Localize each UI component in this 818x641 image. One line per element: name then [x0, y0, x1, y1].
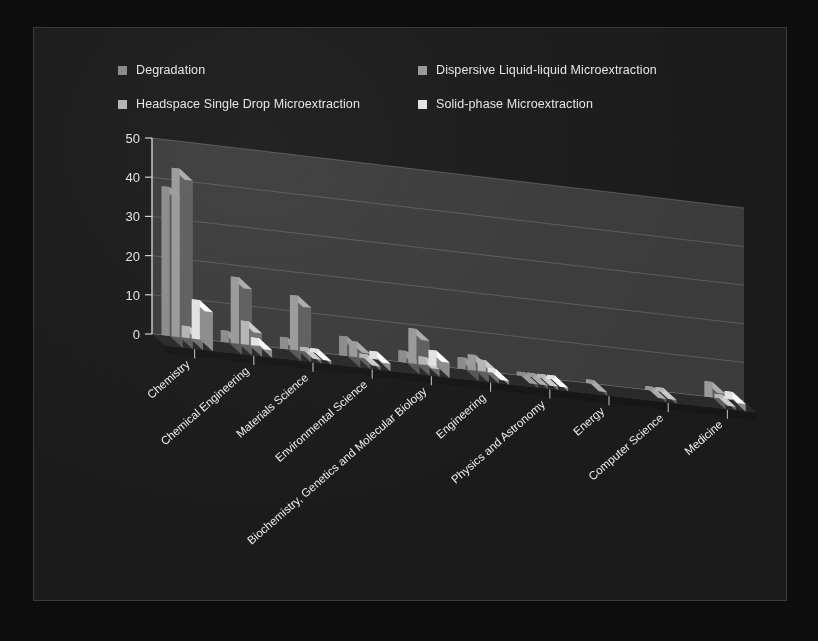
bar: [172, 168, 193, 349]
y-tick-label-20: 20: [126, 249, 140, 264]
bar-front-face[interactable]: [478, 359, 486, 372]
bar-front-face[interactable]: [408, 328, 416, 364]
legend-item-solid-phase-microextraction[interactable]: Solid-phase Microextraction: [418, 97, 738, 111]
chart-legend: Degradation Dispersive Liquid-liquid Mic…: [118, 53, 758, 121]
x-axis-label: Energy: [571, 405, 607, 438]
bar-front-face[interactable]: [349, 341, 357, 358]
bar-front-face[interactable]: [418, 356, 426, 365]
bar-front-face[interactable]: [468, 354, 476, 370]
legend-item-dispersive-liquid-liquid-microextraction[interactable]: Dispersive Liquid-liquid Microextraction: [418, 63, 738, 77]
bar-front-face[interactable]: [398, 350, 406, 363]
legend-label-solid-phase-microextraction: Solid-phase Microextraction: [436, 97, 593, 111]
x-axis-label: Engineering: [434, 391, 488, 440]
bar-front-face[interactable]: [182, 326, 190, 339]
x-axis-label: Chemistry: [145, 358, 192, 401]
legend-item-headspace-single-drop-microextraction[interactable]: Headspace Single Drop Microextraction: [118, 97, 418, 111]
bar-front-face[interactable]: [457, 357, 465, 370]
legend-label-dispersive-liquid-liquid-microextraction: Dispersive Liquid-liquid Microextraction: [436, 63, 657, 77]
x-axis-label: Materials Science: [234, 371, 310, 440]
legend-swatch-degradation: [118, 66, 127, 75]
bar-front-face[interactable]: [339, 336, 347, 356]
y-tick-label-0: 0: [133, 327, 140, 342]
y-tick-label-10: 10: [126, 288, 140, 303]
bar-front-face[interactable]: [161, 186, 169, 336]
bar-front-face[interactable]: [251, 337, 259, 346]
legend-item-degradation[interactable]: Degradation: [118, 63, 418, 77]
bar-front-face[interactable]: [369, 351, 377, 360]
page-background: Degradation Dispersive Liquid-liquid Mic…: [0, 0, 818, 641]
bar-side-face: [180, 169, 193, 349]
bar-front-face[interactable]: [172, 168, 180, 337]
bar-front-face[interactable]: [221, 330, 229, 343]
bar-front-face[interactable]: [241, 321, 249, 345]
bar-front-face[interactable]: [231, 276, 239, 343]
y-tick-label-50: 50: [126, 131, 140, 146]
bar-front-face[interactable]: [704, 381, 712, 397]
y-tick-label-30: 30: [126, 209, 140, 224]
legend-label-degradation: Degradation: [136, 63, 205, 77]
x-axis-label: Medicine: [682, 418, 725, 457]
y-tick-label-40: 40: [126, 170, 140, 185]
legend-swatch-solid-phase-microextraction: [418, 100, 427, 109]
y-axis: 01020304050: [126, 131, 152, 342]
bar-front-face[interactable]: [290, 295, 298, 351]
legend-label-headspace-single-drop-microextraction: Headspace Single Drop Microextraction: [136, 97, 360, 111]
legend-swatch-headspace-single-drop-microextraction: [118, 100, 127, 109]
bar-front-face[interactable]: [192, 299, 200, 339]
chart-card: Degradation Dispersive Liquid-liquid Mic…: [33, 27, 787, 601]
bar-front-face[interactable]: [280, 337, 288, 350]
x-axis-label: Computer Science: [586, 411, 665, 482]
bar-front-face[interactable]: [428, 350, 436, 367]
legend-swatch-dispersive-liquid-liquid-microextraction: [418, 66, 427, 75]
bar-front-face[interactable]: [724, 391, 732, 400]
